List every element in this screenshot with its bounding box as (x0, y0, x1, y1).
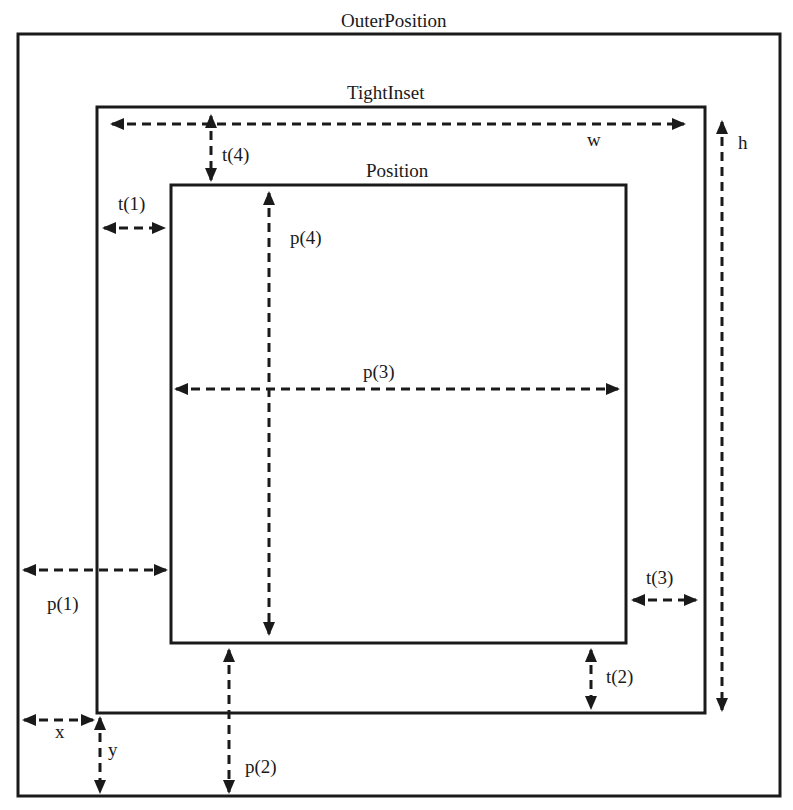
x-label: x (55, 722, 65, 741)
h-label: h (738, 133, 748, 152)
t3-label: t(3) (646, 568, 673, 587)
p2-label: p(2) (245, 757, 277, 776)
t2-label: t(2) (606, 667, 633, 686)
t4-label: t(4) (222, 145, 249, 164)
outer-position-label: OuterPosition (341, 11, 447, 30)
position-label: Position (366, 161, 428, 180)
position-box (171, 185, 626, 643)
t1-label: t(1) (118, 194, 145, 213)
y-label: y (108, 740, 118, 759)
p4-label: p(4) (290, 228, 322, 247)
p1-label: p(1) (47, 594, 79, 613)
p3-label: p(3) (363, 362, 395, 381)
layout-diagram (0, 0, 793, 810)
tight-inset-box (97, 107, 705, 713)
w-label: w (587, 130, 601, 149)
tight-inset-label: TightInset (347, 83, 424, 102)
outer-position-box (18, 34, 780, 796)
